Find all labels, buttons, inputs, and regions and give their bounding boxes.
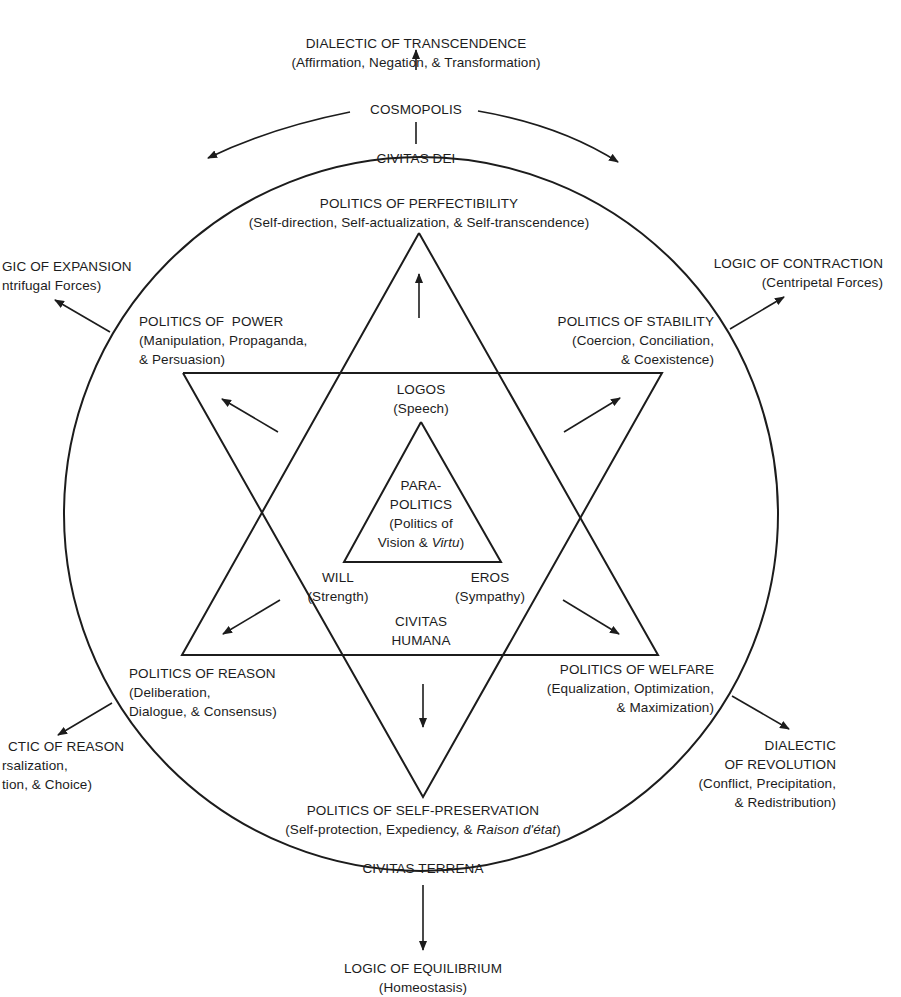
stability-line2: (Coercion, Conciliation, — [558, 331, 714, 350]
politics-of-welfare-label: POLITICS OF WELFARE (Equalization, Optim… — [547, 660, 714, 717]
equilibrium-title: LOGIC OF EQUILIBRIUM — [344, 959, 502, 978]
dialectic-of-revolution-label: DIALECTIC OF REVOLUTION (Conflict, Preci… — [698, 736, 836, 812]
reason-line2: (Deliberation, — [129, 683, 277, 702]
self-preservation-subtitle: (Self-protection, Expediency, & Raison d… — [285, 820, 561, 839]
eros-label: EROS (Sympathy) — [455, 568, 525, 606]
arrow-upper-right-icon — [564, 398, 620, 432]
politics-of-reason-label: POLITICS OF REASON (Deliberation, Dialog… — [129, 664, 277, 721]
dialectic-of-transcendence-subtitle: (Affirmation, Negation, & Transformation… — [291, 53, 540, 72]
power-line3: & Persuasion) — [139, 350, 307, 369]
power-title: POLITICS OF POWER — [139, 312, 307, 331]
downward-triangle — [183, 373, 662, 797]
arrow-lower-left-icon — [223, 600, 280, 634]
para-line2: POLITICS — [378, 495, 465, 514]
equilibrium-subtitle: (Homeostasis) — [344, 978, 502, 997]
dialectic-reason-title: CTIC OF REASON — [8, 737, 124, 756]
arrow-dialectic-reason-icon — [58, 703, 112, 735]
politics-of-stability-label: POLITICS OF STABILITY (Coercion, Concili… — [558, 312, 714, 369]
civitas-humana-label: CIVITAS HUMANA — [391, 612, 450, 650]
logos-label: LOGOS (Speech) — [393, 380, 449, 418]
logos-subtitle: (Speech) — [393, 399, 449, 418]
dialectic-of-transcendence-label: DIALECTIC OF TRANSCENDENCE (Affirmation,… — [291, 34, 540, 72]
politics-of-perfectibility-label: POLITICS OF PERFECTIBILITY (Self-directi… — [249, 194, 589, 232]
dialectic-of-transcendence-title: DIALECTIC OF TRANSCENDENCE — [291, 34, 540, 53]
para-line4: Vision & Virtu) — [378, 533, 465, 552]
perfectibility-subtitle: (Self-direction, Self-actualization, & S… — [249, 213, 589, 232]
contraction-subtitle: (Centripetal Forces) — [714, 273, 883, 292]
eros-subtitle: (Sympathy) — [455, 587, 525, 606]
civitas-dei-label: CIVITAS DEI — [377, 149, 456, 168]
politics-of-power-label: POLITICS OF POWER (Manipulation, Propaga… — [139, 312, 307, 369]
revolution-line4: & Redistribution) — [698, 793, 836, 812]
arrow-expansion-icon — [55, 300, 110, 332]
civitas-terrena-text: CIVITAS TERRENA — [362, 859, 483, 878]
welfare-line2: (Equalization, Optimization, — [547, 679, 714, 698]
expansion-subtitle: ntrifugal Forces) — [2, 276, 132, 295]
arrow-upper-left-icon — [222, 399, 278, 432]
will-title: WILL — [307, 568, 368, 587]
revolution-title: DIALECTIC — [698, 736, 836, 755]
para-line1: PARA- — [378, 476, 465, 495]
power-line2: (Manipulation, Propaganda, — [139, 331, 307, 350]
reason-line3: Dialogue, & Consensus) — [129, 702, 277, 721]
upward-triangle — [182, 233, 658, 655]
politics-of-self-preservation-label: POLITICS OF SELF-PRESERVATION (Self-prot… — [285, 801, 561, 839]
dialectic-reason-line3: tion, & Choice) — [2, 775, 124, 794]
arrow-contraction-icon — [730, 297, 784, 329]
arc-arrow-right-icon — [478, 111, 618, 162]
para-line4-italic: Virtu — [432, 535, 460, 550]
civitas-dei-text: CIVITAS DEI — [377, 149, 456, 168]
stability-line3: & Coexistence) — [558, 350, 714, 369]
dialectic-of-reason-label: CTIC OF REASON rsalization, tion, & Choi… — [8, 737, 124, 794]
welfare-line3: & Maximization) — [547, 698, 714, 717]
logos-title: LOGOS — [393, 380, 449, 399]
logic-of-expansion-label: GIC OF EXPANSION ntrifugal Forces) — [2, 257, 132, 295]
reason-title: POLITICS OF REASON — [129, 664, 277, 683]
self-preservation-subtitle-italic: Raison d'état — [477, 822, 557, 837]
arc-arrow-left-icon — [208, 112, 350, 158]
cosmopolis-label: COSMOPOLIS — [366, 100, 466, 119]
arrow-lower-right-icon — [563, 600, 619, 634]
welfare-title: POLITICS OF WELFARE — [547, 660, 714, 679]
revolution-line3: (Conflict, Precipitation, — [698, 774, 836, 793]
revolution-line2: OF REVOLUTION — [698, 755, 836, 774]
arrow-revolution-icon — [732, 696, 789, 729]
self-preservation-subtitle-plain: (Self-protection, Expediency, & — [285, 822, 476, 837]
dialectic-reason-line2: rsalization, — [2, 756, 124, 775]
expansion-title: GIC OF EXPANSION — [2, 257, 132, 276]
eros-title: EROS — [455, 568, 525, 587]
cosmopolis-text: COSMOPOLIS — [370, 100, 462, 119]
contraction-title: LOGIC OF CONTRACTION — [714, 254, 883, 273]
para-line4-plain: Vision & — [378, 535, 432, 550]
para-politics-label: PARA- POLITICS (Politics of Vision & Vir… — [378, 476, 465, 552]
perfectibility-title: POLITICS OF PERFECTIBILITY — [249, 194, 589, 213]
civitas-humana-line2: HUMANA — [391, 631, 450, 650]
will-subtitle: (Strength) — [307, 587, 368, 606]
para-line3: (Politics of — [378, 514, 465, 533]
stability-title: POLITICS OF STABILITY — [558, 312, 714, 331]
self-preservation-title: POLITICS OF SELF-PRESERVATION — [285, 801, 561, 820]
civitas-terrena-label: CIVITAS TERRENA — [362, 859, 483, 878]
will-label: WILL (Strength) — [307, 568, 368, 606]
para-line4-end: ) — [460, 535, 465, 550]
logic-of-equilibrium-label: LOGIC OF EQUILIBRIUM (Homeostasis) — [344, 959, 502, 997]
logic-of-contraction-label: LOGIC OF CONTRACTION (Centripetal Forces… — [714, 254, 883, 292]
civitas-humana-line1: CIVITAS — [391, 612, 450, 631]
self-preservation-subtitle-end: ) — [556, 822, 561, 837]
